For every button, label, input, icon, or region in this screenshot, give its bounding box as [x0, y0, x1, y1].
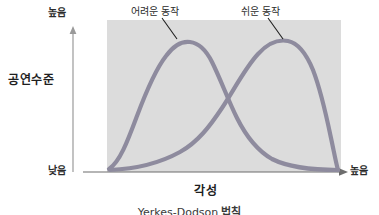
- figure-caption: Yerkes-Dodson법칙: [0, 203, 379, 215]
- figure-caption-en: Yerkes-Dodson: [138, 206, 219, 215]
- figure-caption-ko: 법칙: [221, 206, 241, 215]
- y-axis: [70, 26, 77, 172]
- y-axis-high-label: 높음: [48, 8, 66, 18]
- x-axis-title: 각성: [194, 185, 217, 197]
- x-axis-high-label: 높음: [350, 166, 368, 176]
- series-label-easy-motion: 쉬운 동작: [241, 7, 280, 17]
- y-axis-low-label: 낮음: [48, 166, 66, 176]
- plot-area-background: [107, 20, 341, 172]
- yerkes-dodson-figure: 높음 낮음 공연수준 높음 각성 어려운 동작 쉬운 동작 Yerkes-Dod…: [0, 0, 379, 215]
- y-axis-title: 공연수준: [8, 74, 54, 86]
- series-label-hard-motion: 어려운 동작: [131, 7, 179, 17]
